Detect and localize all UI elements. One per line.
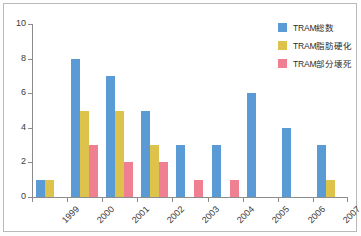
x-axis-label: 2001 bbox=[130, 204, 151, 225]
y-tick-label: 4 bbox=[21, 122, 26, 133]
x-tick-mark bbox=[243, 198, 244, 202]
bar[interactable] bbox=[317, 145, 326, 197]
bar[interactable] bbox=[45, 180, 54, 197]
bar[interactable] bbox=[150, 145, 159, 197]
x-tick-mark bbox=[208, 198, 209, 202]
bar[interactable] bbox=[212, 145, 221, 197]
x-axis-label: 1999 bbox=[60, 204, 81, 225]
legend-swatch-icon bbox=[278, 41, 287, 50]
bar[interactable] bbox=[141, 111, 150, 198]
y-tick-label: 6 bbox=[21, 87, 26, 98]
legend-item[interactable]: TRAM脂肪硬化 bbox=[278, 36, 361, 54]
y-tick-label: 8 bbox=[21, 53, 26, 64]
x-axis-label: 2006 bbox=[305, 204, 326, 225]
bar-group bbox=[106, 24, 133, 197]
y-tick-mark bbox=[28, 162, 32, 163]
x-tick-mark bbox=[102, 198, 103, 202]
bar[interactable] bbox=[36, 180, 45, 197]
bar[interactable] bbox=[106, 76, 115, 197]
bar-group bbox=[36, 24, 63, 197]
x-axis-label: 2004 bbox=[235, 204, 256, 225]
bar[interactable] bbox=[89, 145, 98, 197]
legend-item[interactable]: TRAM総数 bbox=[278, 18, 361, 36]
y-tick-mark bbox=[28, 59, 32, 60]
bar-group bbox=[212, 24, 239, 197]
x-tick-mark bbox=[278, 198, 279, 202]
x-tick-mark bbox=[32, 198, 33, 202]
legend-label: TRAM脂肪硬化 bbox=[293, 39, 351, 51]
x-tick-mark bbox=[137, 198, 138, 202]
x-axis-line bbox=[32, 197, 348, 198]
x-tick-mark bbox=[347, 198, 348, 202]
y-axis-line bbox=[32, 24, 33, 198]
y-tick-label: 2 bbox=[21, 156, 26, 167]
x-axis-label: 2007 bbox=[341, 204, 361, 225]
bar[interactable] bbox=[247, 93, 256, 197]
bar[interactable] bbox=[80, 111, 89, 198]
bar-group bbox=[176, 24, 203, 197]
legend-swatch-icon bbox=[278, 23, 287, 32]
bar-group bbox=[247, 24, 274, 197]
x-axis-label: 2000 bbox=[95, 204, 116, 225]
y-tick-mark bbox=[28, 128, 32, 129]
bar[interactable] bbox=[282, 128, 291, 197]
bar[interactable] bbox=[159, 162, 168, 197]
legend-label: TRAM部分壊死 bbox=[293, 57, 351, 69]
x-tick-mark bbox=[67, 198, 68, 202]
x-axis-label: 2005 bbox=[270, 204, 291, 225]
x-tick-mark bbox=[313, 198, 314, 202]
bar[interactable] bbox=[115, 111, 124, 198]
bar[interactable] bbox=[124, 162, 133, 197]
chart-frame: 0246810 19992000200120022003200420052006… bbox=[3, 3, 357, 232]
bar[interactable] bbox=[176, 145, 185, 197]
bar-group bbox=[71, 24, 98, 197]
y-tick-label: 0 bbox=[21, 191, 26, 202]
chart-screenshot: 0246810 19992000200120022003200420052006… bbox=[0, 0, 361, 236]
y-tick-mark bbox=[28, 24, 32, 25]
y-tick-label: 10 bbox=[16, 18, 26, 29]
y-tick-mark bbox=[28, 93, 32, 94]
x-axis-label: 2003 bbox=[200, 204, 221, 225]
legend-label: TRAM総数 bbox=[293, 21, 334, 33]
legend-item[interactable]: TRAM部分壊死 bbox=[278, 54, 361, 72]
bar-group bbox=[141, 24, 168, 197]
x-axis-label: 2002 bbox=[165, 204, 186, 225]
bar[interactable] bbox=[194, 180, 203, 197]
bar[interactable] bbox=[326, 180, 335, 197]
legend-swatch-icon bbox=[278, 59, 287, 68]
chart-legend: TRAM総数TRAM脂肪硬化TRAM部分壊死 bbox=[278, 18, 361, 72]
x-tick-mark bbox=[172, 198, 173, 202]
bar[interactable] bbox=[71, 59, 80, 197]
bar[interactable] bbox=[230, 180, 239, 197]
